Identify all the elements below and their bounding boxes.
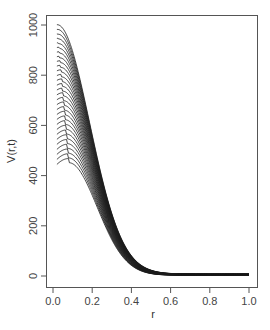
curve-line: [57, 159, 249, 276]
x-axis: 0.00.20.40.60.81.0: [45, 288, 256, 308]
y-tick-label: 1000: [27, 13, 39, 37]
x-tick-label: 1.0: [241, 295, 256, 307]
y-tick-label: 0: [27, 273, 39, 279]
x-tick-label: 0.6: [163, 295, 178, 307]
y-tick-label: 800: [27, 66, 39, 84]
y-axis: 02004006008001000: [27, 13, 47, 279]
x-axis-label: r: [151, 308, 155, 320]
y-axis-label: V(r,t): [5, 139, 17, 163]
curve-line: [57, 144, 249, 275]
curve-family: [57, 25, 249, 276]
y-tick-label: 600: [27, 116, 39, 134]
x-tick-label: 0.4: [124, 295, 139, 307]
x-tick-label: 0.2: [85, 295, 100, 307]
curve-line: [57, 130, 249, 275]
y-tick-label: 400: [27, 166, 39, 184]
line-chart: 02004006008001000 0.00.20.40.60.81.0 r V…: [0, 0, 270, 330]
x-tick-label: 0.0: [45, 295, 60, 307]
x-tick-label: 0.8: [202, 295, 217, 307]
y-tick-label: 200: [27, 217, 39, 235]
curve-line: [57, 47, 249, 274]
curve-line: [57, 52, 249, 275]
curve-line: [57, 65, 249, 274]
curve-line: [57, 29, 249, 274]
plot-frame: [47, 16, 258, 288]
